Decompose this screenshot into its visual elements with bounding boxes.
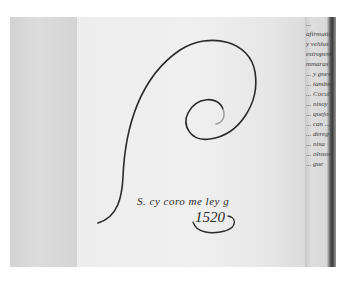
handwritten-line: S. cy coro me ley g [137,195,229,207]
handwritten-date: 1520 [195,209,225,226]
manuscript-photo: ... afirmationes y vehius estropeniens m… [10,17,336,267]
calligraphic-flourish [10,17,336,267]
